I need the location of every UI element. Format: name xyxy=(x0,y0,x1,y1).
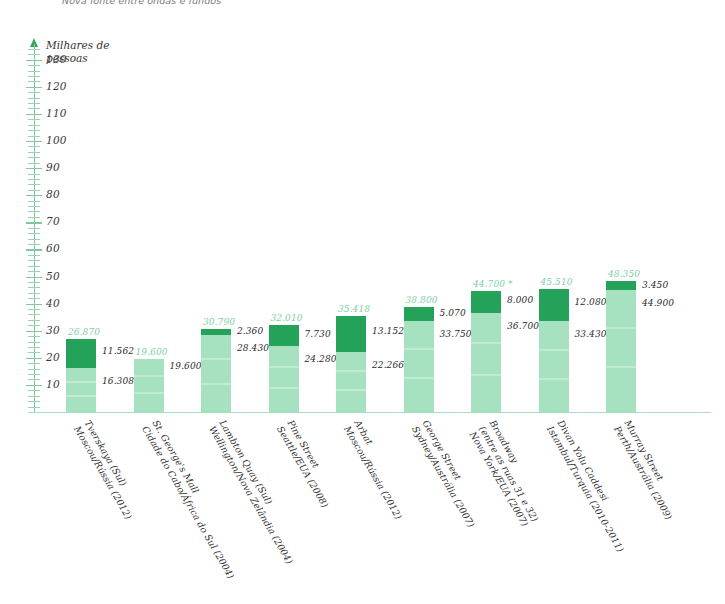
bar-band xyxy=(471,374,501,376)
bar-total-label: 35.418 xyxy=(338,304,370,314)
bar-band xyxy=(269,387,299,389)
bar-band xyxy=(606,327,636,329)
bar-band xyxy=(539,378,569,380)
bars-layer: 26.87011.56216.30819.60019.60030.7902.36… xyxy=(0,0,725,412)
bar-upper-value-label: 7.730 xyxy=(305,329,331,339)
bar-band xyxy=(404,348,434,350)
bar-group[interactable] xyxy=(471,0,501,412)
bar-segment-upper[interactable] xyxy=(539,289,569,322)
bar-band xyxy=(269,366,299,368)
bar-upper-value-label: 11.562 xyxy=(102,346,134,356)
bar-upper-value-label: 12.080 xyxy=(575,297,607,307)
bar-band xyxy=(606,366,636,368)
bar-total-label: 32.010 xyxy=(271,313,303,323)
bar-band xyxy=(471,342,501,344)
bar-lower-value-label: 44.900 xyxy=(642,298,674,308)
bar-band xyxy=(539,349,569,351)
bar-lower-value-label: 16.308 xyxy=(102,376,134,386)
bar-band xyxy=(134,392,164,394)
bar-segment-upper[interactable] xyxy=(471,291,501,313)
bar-lower-value-label: 22.266 xyxy=(372,360,404,370)
bar-upper-value-label: 3.450 xyxy=(642,280,668,290)
bar-segment-upper[interactable] xyxy=(606,281,636,290)
bar-upper-value-label: 5.070 xyxy=(440,308,466,318)
bar-total-label: 19.600 xyxy=(136,347,168,357)
bar-group[interactable] xyxy=(66,0,96,412)
bar-total-label: 26.870 xyxy=(68,327,100,337)
bar-group[interactable] xyxy=(201,0,231,412)
bar-segment-upper[interactable] xyxy=(66,339,96,368)
bar-group[interactable] xyxy=(606,0,636,412)
x-axis-line xyxy=(28,412,711,413)
stacked-bar-chart: Nova fonte entre ondas e fundos Milhares… xyxy=(0,0,725,604)
bar-band xyxy=(134,375,164,377)
bar-total-label: 48.350 xyxy=(608,269,640,279)
bar-band xyxy=(336,370,366,372)
bar-group[interactable] xyxy=(336,0,366,412)
bar-segment-lower[interactable] xyxy=(336,352,366,412)
category-label-line: Istambul/Turquia (2010-2011) xyxy=(545,424,627,554)
bar-segment-lower[interactable] xyxy=(66,368,96,412)
bar-lower-value-label: 33.750 xyxy=(440,329,472,339)
bar-band xyxy=(336,389,366,391)
bar-segment-lower[interactable] xyxy=(539,321,569,412)
bar-upper-value-label: 2.360 xyxy=(237,326,263,336)
bar-group[interactable] xyxy=(404,0,434,412)
bar-lower-value-label: 19.600 xyxy=(170,361,202,371)
bar-segment-lower[interactable] xyxy=(201,335,231,412)
bar-upper-value-label: 8.000 xyxy=(507,295,533,305)
bar-total-label: 38.800 xyxy=(406,295,438,305)
bar-group[interactable] xyxy=(539,0,569,412)
bar-lower-value-label: 33.430 xyxy=(575,329,607,339)
bar-lower-value-label: 36.700 xyxy=(507,321,539,331)
bar-segment-lower[interactable] xyxy=(606,290,636,412)
bar-lower-value-label: 24.280 xyxy=(305,354,337,364)
bar-segment-lower[interactable] xyxy=(471,313,501,412)
bar-segment-upper[interactable] xyxy=(201,329,231,335)
category-label-line: Sydney/Austrália (2007) xyxy=(410,424,478,529)
bar-band xyxy=(201,358,231,360)
bar-lower-value-label: 28.430 xyxy=(237,343,269,353)
bar-upper-value-label: 13.152 xyxy=(372,326,404,336)
bar-segment-lower[interactable] xyxy=(404,321,434,412)
bar-segment-upper[interactable] xyxy=(336,316,366,352)
bar-band xyxy=(66,381,96,383)
bar-group[interactable] xyxy=(269,0,299,412)
bar-band xyxy=(404,377,434,379)
bar-total-label: 30.790 xyxy=(203,317,235,327)
bar-total-label: 45.510 xyxy=(541,277,573,287)
bar-band xyxy=(201,383,231,385)
bar-segment-upper[interactable] xyxy=(269,325,299,346)
bar-total-label: 44.700 * xyxy=(473,279,513,289)
bar-segment-upper[interactable] xyxy=(404,307,434,321)
bar-segment-lower[interactable] xyxy=(134,359,164,412)
bar-segment-lower[interactable] xyxy=(269,346,299,412)
bar-band xyxy=(66,395,96,397)
